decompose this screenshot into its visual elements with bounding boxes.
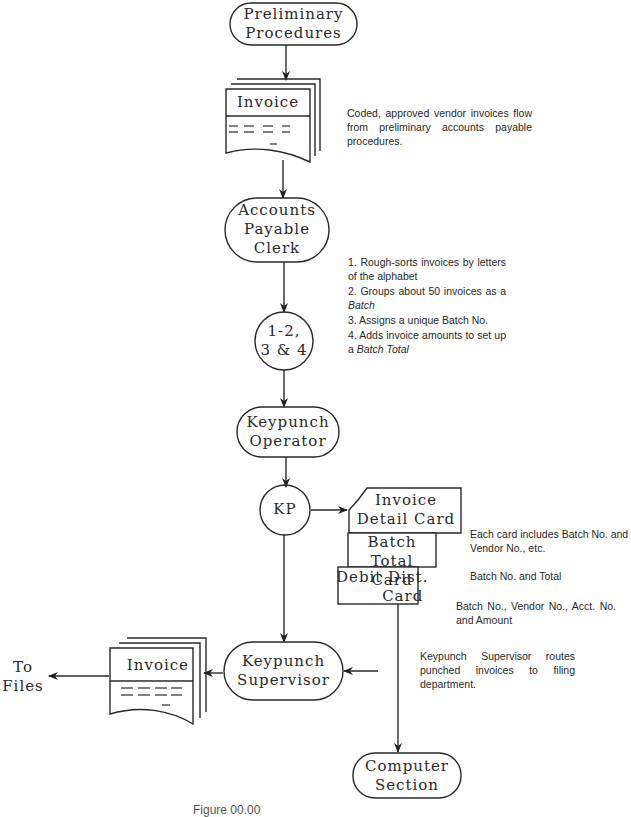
invoice-document-stack-bottom	[110, 638, 206, 724]
computer-section-label: Computer Section	[353, 757, 461, 795]
batch-card-note: Batch No. and Total	[470, 569, 620, 583]
keypunch-supervisor-label: Keypunch Supervisor	[224, 652, 343, 690]
clerk-step-3: 3. Assigns a unique Batch No.	[348, 313, 506, 327]
to-files-label: To Files	[0, 658, 46, 696]
ap-clerk-label: Accounts Payable Clerk	[225, 201, 329, 258]
kp-label: KP	[260, 500, 310, 519]
keypunch-operator-label: Keypunch Operator	[237, 413, 339, 451]
supervisor-note: Keypunch Supervisor routes punched invoi…	[420, 649, 575, 691]
steps-connector-label: 1-2, 3 & 4	[255, 322, 313, 360]
debit-card-note: Batch No., Vendor No., Acct. No. and Amo…	[456, 599, 616, 627]
step-text-italic: Batch Total	[357, 343, 409, 355]
step-text: Groups about 50 invoices as a	[360, 285, 506, 297]
step-number: 4.	[348, 329, 357, 341]
preliminary-procedures-label: Preliminary Procedures	[230, 5, 357, 43]
step-number: 3.	[348, 314, 357, 326]
step-text: Assigns a unique Batch No.	[359, 314, 488, 326]
clerk-step-2: 2. Groups about 50 invoices as a Batch	[348, 284, 506, 312]
step-number: 1.	[348, 256, 357, 268]
invoice-detail-card-label: Invoice Detail Card	[352, 491, 460, 529]
clerk-steps-note: 1. Rough-sorts invoices by letters of th…	[348, 255, 506, 357]
invoice-document-stack-top	[226, 79, 320, 162]
step-number: 2.	[348, 285, 357, 297]
detail-card-note: Each card includes Batch No. and Vendor …	[470, 527, 630, 555]
debit-dist-card-label: Debit Dist. Card	[336, 568, 418, 606]
clerk-step-4: 4. Adds invoice amounts to set up a Batc…	[348, 328, 506, 356]
figure-caption: Figure 00.00	[193, 803, 260, 817]
clerk-step-1: 1. Rough-sorts invoices by letters of th…	[348, 255, 506, 283]
step-text-italic: Batch	[348, 299, 375, 311]
invoice-flow-note: Coded, approved vendor invoices flow fro…	[347, 106, 532, 148]
invoice-top-label: Invoice	[226, 93, 310, 112]
invoice-bottom-label: Invoice	[110, 656, 193, 675]
step-text: Rough-sorts invoices by letters of the a…	[348, 256, 506, 282]
